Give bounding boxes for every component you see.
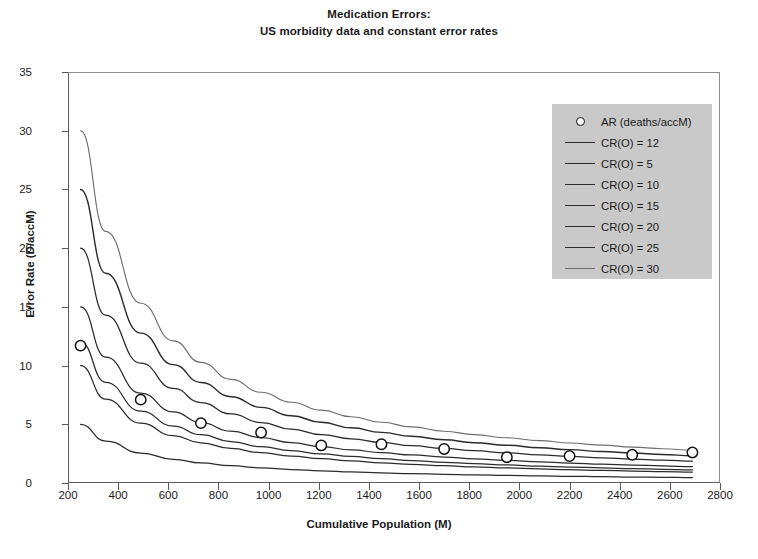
x-tick-mark: [620, 483, 621, 490]
y-tick-label: 10: [0, 360, 32, 372]
y-tick-label: 20: [0, 242, 32, 254]
legend-item[interactable]: CR(O) = 30: [562, 258, 712, 279]
x-tick-mark: [218, 483, 219, 490]
legend-item-label: CR(O) = 15: [598, 200, 659, 212]
data-point-marker: [316, 440, 326, 450]
x-axis-label: Cumulative Population (M): [0, 518, 758, 530]
data-point-marker: [687, 447, 697, 457]
legend-item[interactable]: CR(O) = 25: [562, 237, 712, 258]
legend-key-line: [562, 220, 598, 234]
legend-key-line: [562, 136, 598, 150]
x-tick-label: 2800: [685, 489, 755, 501]
y-tick-label: 5: [0, 418, 32, 430]
legend-key-marker: [562, 115, 598, 129]
chart-figure: Medication Errors: US morbidity data and…: [0, 0, 758, 559]
x-tick-mark: [469, 483, 470, 490]
legend-item-label: CR(O) = 10: [598, 179, 659, 191]
x-tick-mark: [720, 483, 721, 490]
legend-item-label: CR(O) = 5: [598, 158, 653, 170]
x-tick-mark: [419, 483, 420, 490]
x-tick-mark: [369, 483, 370, 490]
legend-key-line: [562, 241, 598, 255]
legend-marker-icon: [576, 117, 585, 126]
legend-item-label: AR (deaths/accM): [598, 116, 691, 128]
x-tick-mark: [118, 483, 119, 490]
data-point-marker: [439, 444, 449, 454]
x-tick-mark: [269, 483, 270, 490]
x-tick-mark: [168, 483, 169, 490]
legend-item-label: CR(O) = 30: [598, 263, 659, 275]
legend-item[interactable]: AR (deaths/accM): [562, 111, 712, 132]
legend-item-label: CR(O) = 25: [598, 242, 659, 254]
y-tick-label: 0: [0, 477, 32, 489]
series-line: [81, 366, 693, 473]
y-tick-label: 15: [0, 301, 32, 313]
legend-item[interactable]: CR(O) = 20: [562, 216, 712, 237]
series-line: [81, 248, 693, 461]
chart-legend: AR (deaths/accM)CR(O) = 12CR(O) = 5CR(O)…: [552, 104, 712, 279]
y-tick-label: 35: [0, 66, 32, 78]
chart-subtitle: US morbidity data and constant error rat…: [0, 25, 758, 37]
series-line: [81, 342, 693, 470]
legend-item-label: CR(O) = 12: [598, 137, 659, 149]
legend-key-line: [562, 262, 598, 276]
legend-line-icon: [565, 226, 595, 227]
legend-item[interactable]: CR(O) = 10: [562, 174, 712, 195]
data-point-marker: [256, 427, 266, 437]
legend-key-line: [562, 199, 598, 213]
legend-item[interactable]: CR(O) = 5: [562, 153, 712, 174]
legend-line-icon: [565, 268, 595, 269]
data-point-marker: [136, 394, 146, 404]
legend-line-icon: [565, 142, 595, 143]
data-point-marker: [75, 340, 85, 350]
data-point-marker: [376, 439, 386, 449]
data-point-marker: [196, 418, 206, 428]
legend-key-line: [562, 178, 598, 192]
legend-item-label: CR(O) = 20: [598, 221, 659, 233]
legend-line-icon: [565, 184, 595, 185]
x-tick-mark: [319, 483, 320, 490]
legend-item[interactable]: CR(O) = 15: [562, 195, 712, 216]
x-tick-mark: [570, 483, 571, 490]
legend-line-icon: [565, 163, 595, 164]
legend-line-icon: [565, 205, 595, 206]
legend-item[interactable]: CR(O) = 12: [562, 132, 712, 153]
y-tick-label: 30: [0, 125, 32, 137]
x-tick-mark: [68, 483, 69, 490]
data-point-marker: [502, 452, 512, 462]
legend-line-icon: [565, 247, 595, 248]
data-point-marker: [564, 451, 574, 461]
legend-key-line: [562, 157, 598, 171]
x-tick-mark: [670, 483, 671, 490]
data-point-marker: [627, 450, 637, 460]
chart-title: Medication Errors:: [0, 8, 758, 20]
y-tick-label: 25: [0, 183, 32, 195]
x-tick-mark: [519, 483, 520, 490]
